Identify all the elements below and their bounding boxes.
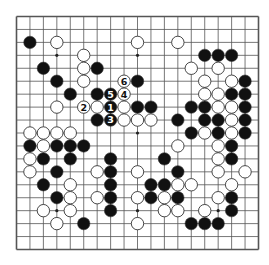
white-stone[interactable] (185, 179, 197, 191)
black-stone[interactable] (51, 166, 63, 178)
black-stone[interactable] (51, 192, 63, 204)
white-stone[interactable] (37, 127, 49, 139)
white-stone[interactable] (199, 75, 211, 87)
white-stone[interactable] (212, 88, 224, 100)
black-stone[interactable] (91, 62, 103, 74)
black-stone[interactable] (185, 101, 197, 113)
black-stone[interactable] (239, 88, 251, 100)
black-stone[interactable] (239, 75, 251, 87)
white-stone[interactable] (64, 179, 76, 191)
white-stone[interactable] (239, 166, 251, 178)
black-stone[interactable] (37, 153, 49, 165)
black-stone[interactable] (225, 192, 237, 204)
white-stone[interactable] (118, 114, 130, 126)
black-stone[interactable] (212, 217, 224, 229)
white-stone[interactable] (37, 140, 49, 152)
white-stone[interactable] (199, 88, 211, 100)
black-stone[interactable] (51, 140, 63, 152)
black-stone[interactable] (185, 217, 197, 229)
white-stone[interactable] (225, 127, 237, 139)
black-stone[interactable] (199, 101, 211, 113)
white-stone[interactable] (51, 36, 63, 48)
white-stone[interactable] (212, 192, 224, 204)
white-stone[interactable] (131, 192, 143, 204)
go-board[interactable]: 123456 (0, 0, 269, 265)
white-stone[interactable] (199, 204, 211, 216)
black-stone[interactable] (37, 62, 49, 74)
white-stone[interactable] (91, 192, 103, 204)
black-stone[interactable] (199, 49, 211, 61)
white-stone[interactable] (131, 114, 143, 126)
black-stone[interactable] (212, 127, 224, 139)
black-stone[interactable] (172, 192, 184, 204)
black-stone[interactable] (145, 179, 157, 191)
white-stone[interactable] (158, 204, 170, 216)
black-stone[interactable] (104, 179, 116, 191)
black-stone[interactable] (104, 204, 116, 216)
black-stone[interactable] (131, 75, 143, 87)
black-stone[interactable] (158, 153, 170, 165)
black-stone[interactable] (158, 179, 170, 191)
black-stone[interactable] (185, 127, 197, 139)
black-stone[interactable] (131, 101, 143, 113)
white-stone[interactable] (64, 192, 76, 204)
white-stone[interactable] (91, 101, 103, 113)
black-stone[interactable] (225, 153, 237, 165)
black-stone[interactable] (225, 88, 237, 100)
black-stone[interactable] (78, 217, 90, 229)
black-stone[interactable] (24, 36, 36, 48)
white-stone[interactable] (172, 140, 184, 152)
black-stone[interactable] (78, 140, 90, 152)
white-stone[interactable] (225, 179, 237, 191)
white-stone[interactable] (51, 101, 63, 113)
black-stone[interactable] (199, 217, 211, 229)
white-stone[interactable] (78, 62, 90, 74)
white-stone[interactable] (118, 101, 130, 113)
white-stone[interactable] (131, 166, 143, 178)
white-stone[interactable] (172, 179, 184, 191)
black-stone[interactable] (212, 49, 224, 61)
black-stone[interactable] (239, 101, 251, 113)
white-stone[interactable] (37, 204, 49, 216)
white-stone[interactable] (185, 62, 197, 74)
black-stone[interactable] (225, 204, 237, 216)
white-stone[interactable] (212, 62, 224, 74)
black-stone[interactable] (104, 192, 116, 204)
black-stone[interactable] (145, 101, 157, 113)
black-stone[interactable] (24, 140, 36, 152)
white-stone[interactable] (225, 114, 237, 126)
black-stone[interactable] (64, 153, 76, 165)
black-stone[interactable] (64, 140, 76, 152)
black-stone[interactable] (51, 75, 63, 87)
white-stone[interactable] (131, 36, 143, 48)
white-stone[interactable] (51, 127, 63, 139)
black-stone[interactable] (37, 179, 49, 191)
black-stone[interactable] (104, 166, 116, 178)
white-stone[interactable] (199, 127, 211, 139)
white-stone[interactable] (64, 204, 76, 216)
white-stone[interactable] (64, 127, 76, 139)
white-stone[interactable] (225, 101, 237, 113)
white-stone[interactable] (131, 217, 143, 229)
white-stone[interactable] (145, 114, 157, 126)
black-stone[interactable] (225, 49, 237, 61)
black-stone[interactable] (172, 166, 184, 178)
white-stone[interactable] (212, 166, 224, 178)
white-stone[interactable] (212, 101, 224, 113)
black-stone[interactable] (172, 114, 184, 126)
black-stone[interactable] (145, 192, 157, 204)
white-stone[interactable] (225, 75, 237, 87)
white-stone[interactable] (51, 217, 63, 229)
black-stone[interactable] (199, 114, 211, 126)
white-stone[interactable] (91, 166, 103, 178)
white-stone[interactable] (24, 127, 36, 139)
black-stone[interactable] (225, 140, 237, 152)
white-stone[interactable] (24, 153, 36, 165)
black-stone[interactable] (104, 153, 116, 165)
white-stone[interactable] (212, 153, 224, 165)
white-stone[interactable] (78, 75, 90, 87)
white-stone[interactable] (24, 166, 36, 178)
black-stone[interactable] (91, 88, 103, 100)
white-stone[interactable] (172, 36, 184, 48)
white-stone[interactable] (212, 140, 224, 152)
